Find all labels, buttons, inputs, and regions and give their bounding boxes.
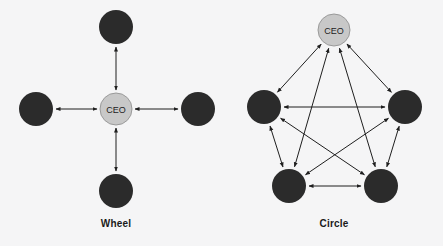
network-edge — [270, 126, 283, 167]
member-node[interactable] — [99, 174, 133, 208]
diagram-caption-circle: Circle — [320, 218, 349, 229]
node-circle[interactable] — [272, 169, 306, 203]
member-node[interactable] — [181, 92, 215, 126]
member-node[interactable] — [99, 10, 133, 44]
node-circle[interactable] — [99, 10, 133, 44]
member-node[interactable] — [19, 92, 53, 126]
member-node[interactable] — [388, 90, 422, 124]
node-circle[interactable] — [181, 92, 215, 126]
node-circle[interactable] — [364, 169, 398, 203]
node-circle[interactable] — [99, 174, 133, 208]
leader-node[interactable]: CEO — [318, 14, 350, 46]
network-edge — [306, 118, 389, 174]
network-edge — [347, 44, 392, 92]
diagram-canvas: CEOCEO WheelCircle — [0, 0, 443, 246]
leader-node[interactable]: CEO — [100, 93, 132, 125]
node-circle[interactable] — [388, 90, 422, 124]
network-edge — [277, 44, 321, 92]
network-edge — [339, 48, 375, 167]
network-diagram-svg: CEOCEO — [0, 0, 443, 246]
node-circle[interactable] — [247, 90, 281, 124]
node-circle[interactable] — [19, 92, 53, 126]
node-circle[interactable] — [100, 93, 132, 125]
diagram-caption-wheel: Wheel — [101, 218, 131, 229]
node-circle[interactable] — [318, 14, 350, 46]
member-node[interactable] — [364, 169, 398, 203]
member-node[interactable] — [272, 169, 306, 203]
network-edge — [281, 118, 365, 175]
network-edge — [295, 48, 329, 167]
network-edge — [387, 126, 399, 167]
member-node[interactable] — [247, 90, 281, 124]
